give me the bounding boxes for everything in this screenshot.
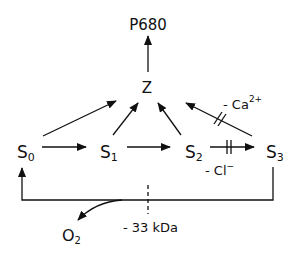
- calcium-label: - Ca2+: [223, 94, 262, 112]
- kda-label: - 33 kDa: [123, 220, 178, 235]
- arrow-s2-to-z: [158, 103, 181, 135]
- calcium-block-mark: [214, 112, 226, 126]
- z-label: Z: [142, 79, 152, 97]
- arrow-s1-to-z: [113, 103, 138, 135]
- s3-label: S3: [266, 142, 284, 164]
- arrow-o2-release: [78, 200, 122, 220]
- chloride-label: - Cl−: [205, 161, 234, 178]
- p680-label: P680: [129, 16, 167, 34]
- s2-label: S2: [185, 142, 203, 164]
- s1-label: S1: [100, 142, 118, 164]
- diagram-canvas: P680 Z - Ca2+ S0 S1 S2 S3 - Cl−: [0, 0, 297, 255]
- arrow-s0-to-z: [43, 101, 116, 136]
- s0-label: S0: [17, 142, 35, 164]
- o2-label: O2: [62, 226, 81, 246]
